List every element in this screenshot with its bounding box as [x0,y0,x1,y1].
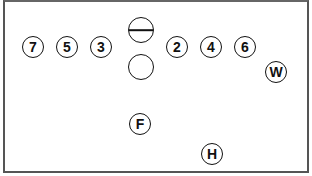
player-h: H [201,143,223,165]
player-w: W [265,61,287,83]
horizontal-line [129,29,153,31]
player-5: 5 [56,36,78,58]
center-line-icon [128,17,154,43]
player-3: 3 [90,36,112,58]
player-7: 7 [22,36,44,58]
player-4: 4 [200,36,222,58]
player-f: F [129,113,151,135]
empty-circle-icon [128,54,154,80]
player-2: 2 [166,36,188,58]
diagram-frame [3,0,309,173]
player-6: 6 [234,36,256,58]
